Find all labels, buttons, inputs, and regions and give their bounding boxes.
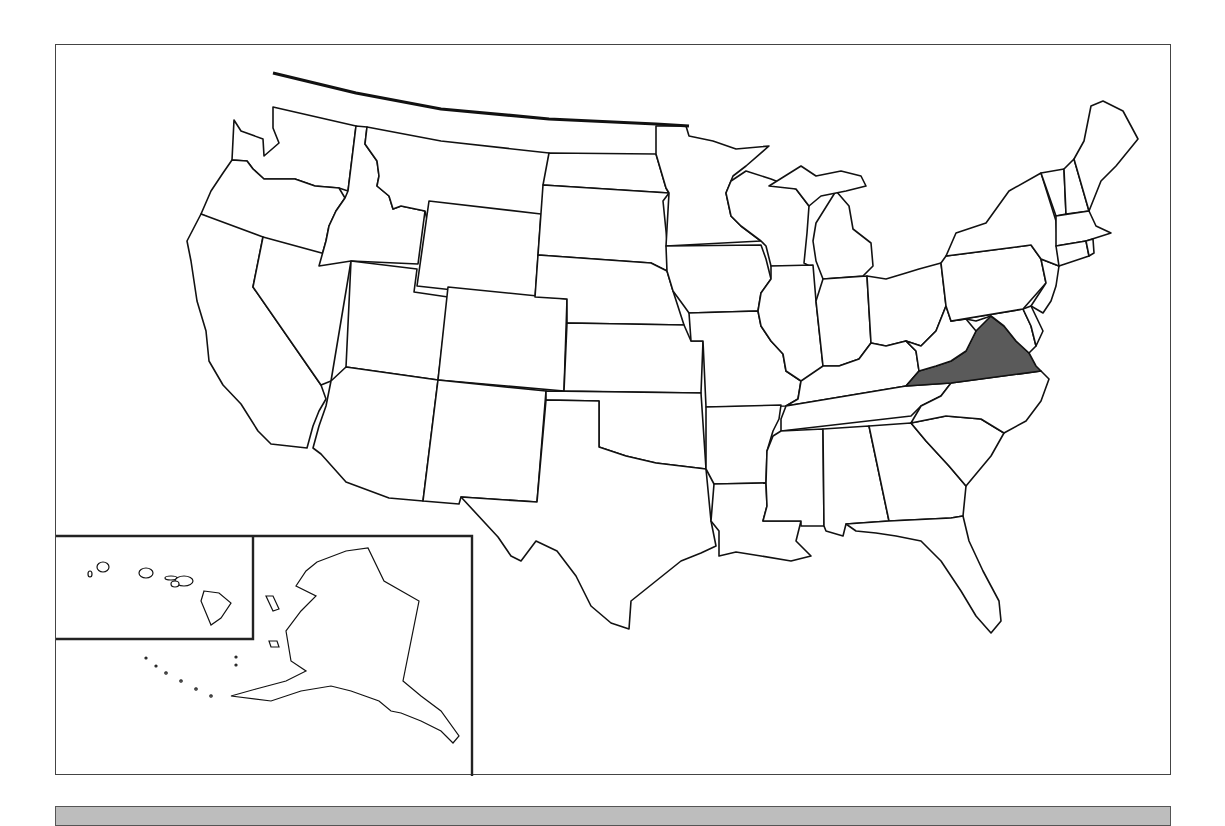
state-wyoming[interactable]	[417, 201, 541, 299]
hawaii-inset-frame	[56, 536, 253, 639]
bottom-panel-bar	[55, 806, 1171, 826]
hawaii[interactable]	[88, 562, 231, 625]
state-new-mexico[interactable]	[423, 380, 546, 504]
state-indiana[interactable]	[816, 276, 871, 366]
state-arizona[interactable]	[313, 367, 438, 501]
northern-border	[273, 73, 689, 126]
us-map	[56, 45, 1172, 776]
inset-frame	[56, 536, 472, 776]
state-colorado[interactable]	[438, 287, 567, 391]
map-frame	[55, 44, 1171, 775]
state-maine[interactable]	[1074, 101, 1138, 211]
alaska[interactable]	[145, 548, 459, 743]
state-iowa[interactable]	[666, 245, 771, 313]
state-michigan-lower[interactable]	[813, 191, 873, 279]
state-mississippi[interactable]	[763, 429, 824, 526]
state-florida[interactable]	[846, 516, 1001, 633]
state-connecticut[interactable]	[1056, 241, 1089, 266]
state-kansas[interactable]	[564, 323, 703, 393]
